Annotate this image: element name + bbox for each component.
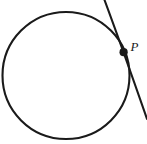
- point-p-dot-icon: [120, 48, 128, 56]
- geometry-canvas: P: [0, 0, 147, 144]
- geometry-figure: P: [0, 0, 147, 144]
- point-p-label: P: [130, 39, 139, 54]
